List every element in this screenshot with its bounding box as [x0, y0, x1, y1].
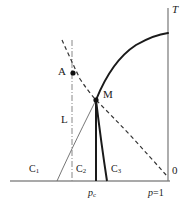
dashed-phase-curve: [62, 40, 167, 176]
label-point-m: M: [103, 89, 113, 100]
label-curve-c1-subscript: 1: [36, 167, 39, 174]
label-tick-pc: pc: [88, 188, 96, 199]
label-curve-c1-base: C: [29, 163, 36, 174]
label-curve-c2-base: C: [76, 163, 83, 174]
label-tick-p1-equals: =1: [153, 187, 164, 198]
label-axis-t: T: [172, 4, 178, 15]
label-curve-c3: C3: [111, 164, 121, 175]
label-curve-c3-subscript: 3: [118, 167, 121, 174]
point-a-marker: [70, 70, 75, 75]
c3-boundary-curve: [96, 100, 107, 181]
label-curve-c3-base: C: [111, 163, 118, 174]
label-curve-c1: C1: [29, 164, 39, 175]
label-origin-zero: 0: [172, 165, 178, 176]
label-curve-c2-subscript: 2: [83, 167, 86, 174]
label-point-a: A: [58, 66, 66, 77]
label-tick-pc-subscript: c: [93, 191, 96, 198]
phase-diagram-figure: A M L T 0 C1 C2 C3 pc p=1: [0, 0, 185, 209]
phase-diagram-svg: [0, 0, 185, 209]
label-curve-c2: C2: [76, 164, 86, 175]
label-region-l: L: [61, 114, 68, 125]
point-m-marker: [93, 97, 98, 102]
label-tick-p1: p=1: [148, 188, 164, 198]
